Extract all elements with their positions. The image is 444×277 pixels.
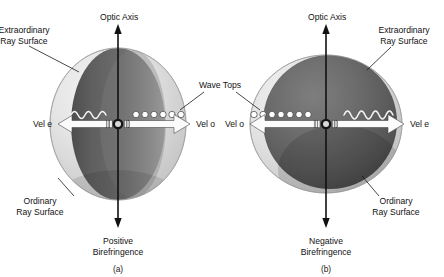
- phase-tick: [110, 120, 113, 128]
- panel-a-vel-o-label: Vel o: [196, 119, 215, 129]
- phase-tick: [124, 120, 126, 128]
- panel-a-optic-axis-label: Optic Axis: [100, 12, 138, 22]
- panel-b-ordinary-label-line1: Ordinary: [380, 196, 414, 206]
- panel-a-origin-hub-inner: [115, 121, 121, 127]
- wave-tops-label: Wave Tops: [199, 80, 241, 90]
- phase-tick: [107, 120, 109, 128]
- panel-b-optic-axis-arrow-up: [322, 24, 329, 34]
- panel-b-wave-top-dot: [251, 111, 257, 117]
- wave-tops-leader-left: [180, 92, 204, 110]
- panel-a-caption: (a): [113, 264, 123, 274]
- birefringence-figure: Optic Axis Extraordinary Ray Surface Ord…: [0, 0, 444, 277]
- panel-b-wave-top-dot: [278, 111, 284, 117]
- panel-a-ordinary-label-line1: Ordinary: [24, 196, 58, 206]
- panel-a-extraordinary-label-line1: Extraordinary: [0, 25, 50, 35]
- phase-tick: [332, 120, 334, 128]
- panel-b-extraordinary-leader: [367, 47, 391, 70]
- panel-b-wave-top-dot: [269, 111, 275, 117]
- panel-a-extraordinary-label-line2: Ray Surface: [0, 36, 48, 46]
- panel-b-extraordinary-label-line2: Ray Surface: [380, 36, 428, 46]
- panel-b-vel-e-label: Vel e: [410, 119, 429, 129]
- panel-b-caption: (b): [321, 264, 331, 274]
- panel-b-wave-top-dot: [296, 111, 302, 117]
- panel-a-birefringence-label-line1: Positive: [103, 236, 133, 246]
- panel-b-vel-o-label: Vel o: [225, 119, 244, 129]
- panel-a-optic-axis-arrow-up: [114, 24, 121, 34]
- panel-a-wave-top-dot: [160, 111, 166, 117]
- panel-a-ordinary-leader: [58, 178, 74, 196]
- panel-b-birefringence-label-line2: Birefringence: [301, 247, 352, 257]
- panel-b-wave-top-dot: [287, 111, 293, 117]
- panel-b-birefringence-label-line1: Negative: [309, 236, 343, 246]
- panel-a-vel-e-label: Vel e: [33, 119, 52, 129]
- phase-tick: [336, 120, 338, 128]
- panel-b-optic-axis-label: Optic Axis: [308, 12, 346, 22]
- panel-a-optic-axis-arrow-down: [114, 218, 121, 228]
- panel-b-origin-hub-inner: [323, 121, 329, 127]
- panel-a-wave-top-dot: [178, 111, 184, 117]
- phase-tick: [128, 120, 130, 128]
- panel-b: Optic Axis Extraordinary Ray Surface Ord…: [180, 12, 430, 274]
- panel-b-ordinary-label-line2: Ray Surface: [372, 207, 420, 217]
- panel-a-wave-top-dot: [133, 111, 139, 117]
- panel-b-optic-axis-arrow-down: [322, 218, 329, 228]
- panel-b-wave-top-dot: [305, 111, 311, 117]
- panel-a-wave-top-dot: [142, 111, 148, 117]
- panel-a-wave-top-dot: [151, 111, 157, 117]
- phase-tick: [317, 120, 320, 128]
- panel-a-birefringence-label-line2: Birefringence: [93, 247, 144, 257]
- panel-a-ordinary-label-line2: Ray Surface: [16, 207, 64, 217]
- phase-tick: [314, 120, 316, 128]
- panel-a-extraordinary-leader: [29, 46, 79, 72]
- figure-canvas: Optic Axis Extraordinary Ray Surface Ord…: [0, 0, 444, 277]
- panel-b-extraordinary-label-line1: Extraordinary: [378, 25, 430, 35]
- panel-a: Optic Axis Extraordinary Ray Surface Ord…: [0, 12, 215, 274]
